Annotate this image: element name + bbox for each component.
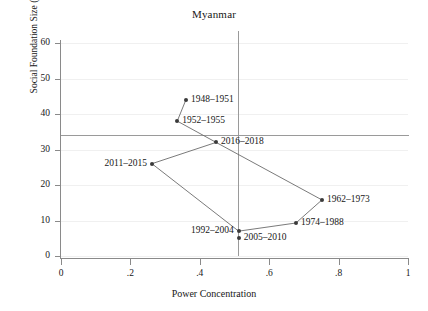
plot-area: 1948–19511952–19551962–19731974–19881992… — [61, 43, 408, 256]
data-point-label: 1992–2004 — [191, 225, 234, 235]
grid-line — [61, 256, 408, 257]
x-axis-tick — [130, 259, 131, 265]
y-axis-tick-label: 30 — [18, 144, 50, 154]
data-point[interactable] — [237, 236, 241, 240]
data-point[interactable] — [150, 162, 154, 166]
x-axis-title: Power Concentration — [0, 288, 428, 299]
y-axis-tick-label: 60 — [18, 37, 50, 47]
y-axis-tick-label: 50 — [18, 73, 50, 83]
x-axis-tick — [61, 259, 62, 265]
x-axis-tick-label: .4 — [185, 268, 215, 278]
x-axis-tick — [269, 259, 270, 265]
data-point[interactable] — [294, 221, 298, 225]
x-axis-tick — [200, 259, 201, 265]
data-point-label: 1974–1988 — [301, 217, 344, 227]
x-axis-tick-label: .8 — [324, 268, 354, 278]
x-axis-tick-label: .2 — [115, 268, 145, 278]
data-point-label: 2005–2010 — [244, 232, 287, 242]
x-axis-line — [61, 258, 409, 259]
x-axis-tick — [408, 259, 409, 265]
data-point-label: 1948–1951 — [191, 94, 234, 104]
y-axis-tick-label: 40 — [18, 108, 50, 118]
data-point[interactable] — [320, 198, 324, 202]
y-axis-tick-label: 20 — [18, 179, 50, 189]
data-point-label: 1952–1955 — [182, 115, 225, 125]
y-axis-title: Social Foundation Size (%) — [29, 0, 39, 121]
series-connector-path — [61, 43, 408, 256]
y-axis-tick-label: 10 — [18, 215, 50, 225]
x-axis-tick-label: .6 — [254, 268, 284, 278]
data-point-label: 2011–2015 — [105, 158, 147, 168]
chart-title: Myanmar — [0, 8, 428, 20]
y-axis-tick-label: 0 — [18, 250, 50, 260]
x-axis-tick — [339, 259, 340, 265]
x-axis-tick-label: 0 — [46, 268, 76, 278]
scatter-chart: Myanmar Social Foundation Size (%) Power… — [0, 0, 428, 311]
data-point[interactable] — [184, 98, 188, 102]
data-point-label: 2016–2018 — [221, 136, 264, 146]
data-point[interactable] — [237, 229, 241, 233]
data-point-label: 1962–1973 — [327, 194, 370, 204]
x-axis-tick-label: 1 — [393, 268, 423, 278]
